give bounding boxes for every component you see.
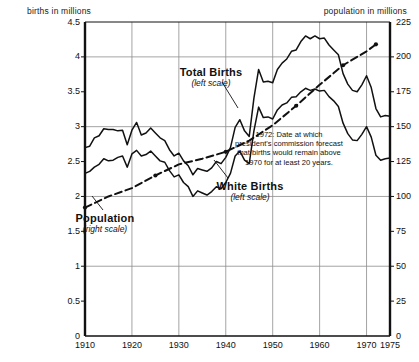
series-label-total-births-scale: (left scale)	[151, 78, 271, 88]
x-tick-label: 1910	[65, 341, 105, 350]
x-tick-label: 1960	[300, 341, 340, 350]
series-label-population-scale: (right scale)	[45, 224, 165, 234]
y-tick-label: 1	[40, 262, 80, 271]
y-tick-label: 2.5	[40, 157, 80, 166]
y2-tick-label: 225	[396, 18, 411, 27]
y2-tick-label: 50	[396, 262, 406, 271]
series-label-white-births-scale: (left scale)	[190, 192, 310, 202]
y2-tick-label: 75	[396, 227, 406, 236]
series-label-white-births-name: White Births	[190, 180, 310, 192]
series-marker	[153, 173, 157, 177]
annotation-line-2: president's commission forecast	[216, 139, 362, 148]
annotation-line-1: 1972: Date at which	[216, 130, 362, 139]
series-marker	[341, 63, 345, 67]
x-tick-label: 1920	[112, 341, 152, 350]
y2-tick-label: 175	[396, 87, 411, 96]
y2-tick-label: 125	[396, 157, 411, 166]
annotation-1972: 1972: Date at which president's commissi…	[216, 130, 362, 167]
series-label-total-births: Total Births (left scale)	[151, 66, 271, 88]
x-tick-label: 1930	[159, 341, 199, 350]
y-tick-label: 4	[40, 52, 80, 61]
y-tick-label: 4.5	[40, 18, 80, 27]
y2-tick-label: 25	[396, 297, 406, 306]
annotation-line-3: that births would remain above	[216, 148, 362, 157]
y2-tick-label: 100	[396, 192, 411, 201]
annotation-line-4: 1970 for at least 20 years.	[216, 158, 362, 167]
y2-tick-label: 200	[396, 52, 411, 61]
x-tick-label: 1950	[253, 341, 293, 350]
y-tick-label: 3	[40, 122, 80, 131]
chart-figure: births in millions population in million…	[0, 0, 419, 362]
series-label-total-births-name: Total Births	[151, 66, 271, 78]
series-label-population: Population (right scale)	[45, 212, 165, 234]
y-tick-label: 0.5	[40, 297, 80, 306]
y-tick-label: 3.5	[40, 87, 80, 96]
y-tick-label: 2	[40, 192, 80, 201]
y2-tick-label: 150	[396, 122, 411, 131]
series-marker	[294, 104, 298, 108]
tick-marks	[81, 57, 394, 301]
series-label-white-births: White Births (left scale)	[190, 180, 310, 202]
x-tick-label: 1940	[206, 341, 246, 350]
y-tick-label: 0	[40, 332, 80, 341]
x-tick-label: 1975	[370, 341, 410, 350]
series-label-population-name: Population	[45, 212, 165, 224]
series-marker	[374, 42, 378, 46]
